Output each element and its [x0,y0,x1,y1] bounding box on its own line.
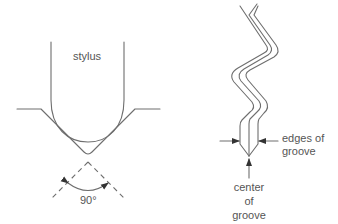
groove-center-line [239,4,272,156]
stylus-label: stylus [73,50,101,63]
groove-right-edge [246,6,278,156]
angle-indicator [52,162,124,198]
center-label-line1: center [229,181,269,194]
center-label-line2: of [229,195,269,208]
groove-left-edge [232,6,268,156]
edges-label-line1: edges of [282,132,324,145]
edges-label-line2: groove [282,145,316,158]
stylus-groove-diagram [0,0,338,224]
dashed-right-line [88,162,124,198]
dashed-left-line [52,162,88,198]
groove-top-view [232,4,278,156]
groove-profile [17,109,160,154]
groove-v-profile [17,109,160,154]
angle-arc [68,183,108,191]
angle-label: 90° [80,194,97,207]
center-label-line3: groove [229,209,269,222]
